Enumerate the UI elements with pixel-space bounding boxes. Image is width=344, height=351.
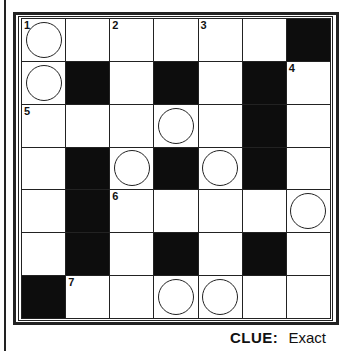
- grid-cell[interactable]: [243, 276, 287, 319]
- grid-cell[interactable]: [22, 62, 66, 105]
- black-cell: [66, 233, 110, 276]
- clue-text: Exact: [288, 329, 326, 346]
- grid-cell[interactable]: [199, 148, 243, 191]
- clue-number: 4: [289, 62, 295, 74]
- circle-marker-icon: [202, 279, 238, 315]
- grid-cell[interactable]: [66, 105, 110, 148]
- grid-cell[interactable]: [287, 190, 331, 233]
- black-cell: [154, 62, 198, 105]
- grid-cell[interactable]: [287, 148, 331, 191]
- grid-cell[interactable]: 7: [66, 276, 110, 319]
- grid-cell[interactable]: [154, 19, 198, 62]
- black-cell: [154, 233, 198, 276]
- grid-cell[interactable]: [110, 62, 154, 105]
- circle-marker-icon: [114, 150, 150, 186]
- black-cell: [287, 19, 331, 62]
- grid-cell[interactable]: 6: [110, 190, 154, 233]
- clue-number: 7: [68, 276, 74, 288]
- grid-cell[interactable]: [66, 19, 110, 62]
- grid-cell[interactable]: [22, 233, 66, 276]
- circle-marker-icon: [158, 108, 194, 144]
- grid-cell[interactable]: [199, 233, 243, 276]
- grid-cell[interactable]: [110, 233, 154, 276]
- black-cell: [243, 105, 287, 148]
- circle-marker-icon: [290, 193, 326, 229]
- crossword-grid: 1234567: [21, 18, 331, 319]
- grid-cell[interactable]: 1: [22, 19, 66, 62]
- clue-number: 6: [112, 190, 118, 202]
- clue-line: CLUE: Exact: [230, 329, 326, 346]
- black-cell: [243, 148, 287, 191]
- clue-number: 2: [112, 19, 118, 31]
- grid-cell[interactable]: 2: [110, 19, 154, 62]
- grid-cell[interactable]: [243, 190, 287, 233]
- grid-cell[interactable]: [110, 148, 154, 191]
- black-cell: [66, 148, 110, 191]
- clue-number: 5: [24, 105, 30, 117]
- grid-cell[interactable]: [287, 105, 331, 148]
- grid-cell[interactable]: [22, 190, 66, 233]
- grid-cell[interactable]: [287, 276, 331, 319]
- grid-cell[interactable]: [110, 105, 154, 148]
- grid-cell[interactable]: 3: [199, 19, 243, 62]
- grid-cell[interactable]: [199, 190, 243, 233]
- black-cell: [243, 233, 287, 276]
- black-cell: [66, 190, 110, 233]
- black-cell: [243, 62, 287, 105]
- grid-cell[interactable]: [110, 276, 154, 319]
- circle-marker-icon: [202, 150, 238, 186]
- grid-cell[interactable]: 5: [22, 105, 66, 148]
- circle-marker-icon: [26, 22, 62, 58]
- grid-cell[interactable]: [22, 148, 66, 191]
- clue-label: CLUE:: [230, 329, 278, 346]
- grid-cell[interactable]: [199, 276, 243, 319]
- black-cell: [66, 62, 110, 105]
- grid-cell[interactable]: [154, 105, 198, 148]
- grid-cell[interactable]: [154, 276, 198, 319]
- grid-cell[interactable]: 4: [287, 62, 331, 105]
- black-cell: [154, 148, 198, 191]
- circle-marker-icon: [158, 279, 194, 315]
- page-rule-line: [4, 0, 6, 351]
- grid-cell[interactable]: [243, 19, 287, 62]
- circle-marker-icon: [26, 65, 62, 101]
- clue-number: 3: [201, 19, 207, 31]
- grid-cell[interactable]: [199, 62, 243, 105]
- grid-cell[interactable]: [287, 233, 331, 276]
- grid-cell[interactable]: [199, 105, 243, 148]
- black-cell: [22, 276, 66, 319]
- grid-cell[interactable]: [154, 190, 198, 233]
